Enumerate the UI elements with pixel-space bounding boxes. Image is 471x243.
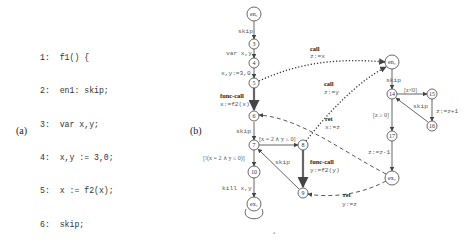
edge-label: z:=z+1 [436,108,459,115]
edge-label: z:=y [324,89,339,96]
node-14: 14 [389,91,395,97]
edge-label: x:=f2(x) [220,101,250,108]
edge-label: kill x,y [222,185,252,192]
edge-kind: func-call [310,158,334,165]
edge-label: var x,y [226,50,252,57]
edge-kind: ret [343,191,352,198]
node-5: 5 [253,80,256,86]
node-8: 8 [302,142,305,148]
edge-label: y:=z [342,201,357,208]
call-edges [259,61,386,141]
node-16: 16 [429,123,435,129]
node-17: 17 [389,133,395,139]
edge-label: y:=f2(y) [310,167,340,174]
ret-edges [259,115,386,196]
node-15: 15 [429,91,435,97]
edge-kind: ret [325,115,334,122]
edge-guard: [x = 2 ∧ y ≤ 0] [259,135,296,142]
edge-guard: [!(x = 2 ∧ y ≤ 0)] [203,155,245,162]
nodes [247,7,437,211]
node-6: 6 [253,113,256,119]
node-ex2: ex₂ [388,175,396,181]
node-en2: en₂ [388,59,396,65]
edge-label: skip [386,77,401,84]
edge-kind: call [310,45,320,52]
f2-edges [392,69,432,171]
edge-label: z:=z-1 [368,149,391,156]
footnote-mark: 1 [273,231,276,235]
node-10: 10 [251,169,257,175]
edge-label: z:=x [310,53,325,60]
edge-label: skip [238,28,253,35]
edge-guard: [z<0] [404,87,417,94]
node-en1: en₁ [250,11,258,17]
node-ex1: ex₁ [250,201,258,207]
edge-label: x,y:=3,0 [221,70,251,77]
edge-guard: [z ≥ 0] [373,112,389,119]
edge-kind: call [324,80,334,87]
edge-label: skip [275,159,290,166]
node-3: 3 [253,41,256,47]
edge-label: skip [236,128,251,135]
edge-kind: func-call [220,92,244,99]
edge-label: x:=z [325,124,340,131]
edge-label: skip [413,103,428,110]
node-4: 4 [253,60,256,66]
node-9: 9 [302,190,305,196]
edge-labels: skip var x,y x,y:=3,0 func-call x:=f2(x)… [203,28,459,235]
node-7: 7 [253,142,256,148]
control-flow-graph: en₁ 3 4 5 6 7 8 9 10 ex₁ en₂ 14 15 16 17… [0,0,471,243]
